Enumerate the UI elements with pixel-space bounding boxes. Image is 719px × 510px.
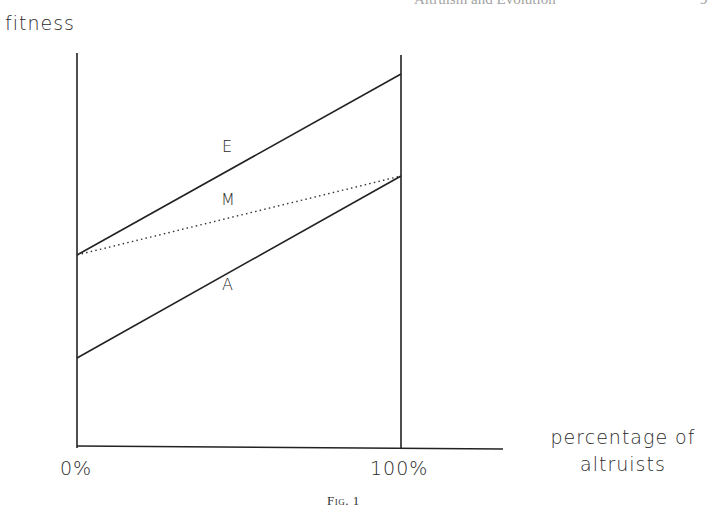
series-a-line xyxy=(77,176,401,358)
x-axis-label-line-1: percentage of xyxy=(528,424,718,451)
x-tick-0-percent: 0% xyxy=(60,457,92,479)
x-axis xyxy=(77,446,503,449)
y-axis-label: fitness xyxy=(5,12,75,34)
series-e-line xyxy=(77,74,401,255)
series-m-line xyxy=(77,176,401,255)
x-axis-label-line-2: altruists xyxy=(528,451,718,478)
x-tick-100-percent: 100% xyxy=(370,457,428,479)
figure-caption: Fig. 1 xyxy=(327,493,360,509)
series-m-label: M xyxy=(221,190,236,209)
series-e-label: E xyxy=(222,137,233,156)
x-axis-label: percentage of altruists xyxy=(528,424,718,478)
series-a-label: A xyxy=(222,275,234,294)
